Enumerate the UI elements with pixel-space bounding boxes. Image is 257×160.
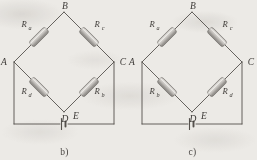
resistor-label-c-lower-right: R d — [221, 86, 233, 98]
node-label-a-c: A — [128, 57, 135, 67]
svg-text:c: c — [102, 24, 105, 31]
resistor-label-c-lower-left: R b — [148, 86, 159, 98]
svg-text:R: R — [20, 19, 27, 29]
resistor-c-lower-left — [150, 70, 183, 103]
svg-text:d: d — [28, 91, 32, 98]
node-label-d-b: D — [61, 114, 69, 124]
svg-text:b: b — [156, 91, 159, 98]
svg-text:R: R — [20, 86, 27, 96]
node-label-c-c: C — [248, 57, 255, 67]
svg-text:a: a — [156, 24, 159, 31]
svg-text:b: b — [101, 91, 104, 98]
circuit-panel-b: A B C D R a R c R d R b E b) — [0, 0, 129, 160]
svg-text:R: R — [221, 19, 228, 29]
svg-text:R: R — [221, 86, 228, 96]
resistor-b-lower-right — [72, 70, 105, 103]
panel-caption-b: b) — [0, 147, 129, 157]
emf-label-c: E — [200, 111, 207, 121]
resistor-label-c-upper-left: R a — [148, 19, 159, 31]
svg-text:d: d — [229, 91, 233, 98]
svg-text:R: R — [93, 19, 100, 29]
resistor-label-b-lower-right: R b — [93, 86, 104, 98]
panel-caption-c: c) — [128, 147, 257, 157]
resistor-b-upper-left — [22, 20, 55, 53]
node-label-b-b: B — [62, 1, 68, 11]
node-label-d-c: D — [189, 114, 197, 124]
svg-text:R: R — [148, 19, 155, 29]
svg-text:R: R — [93, 86, 100, 96]
circuit-panel-c: A B C D R a R c R b R d E c) — [128, 0, 257, 160]
node-label-c-b: C — [120, 57, 127, 67]
resistor-c-upper-left — [150, 20, 183, 53]
circuit-diagram-b: A B C D R a R c R d R b E — [0, 0, 129, 160]
emf-label-b: E — [72, 111, 79, 121]
svg-text:c: c — [230, 24, 233, 31]
svg-text:R: R — [148, 86, 155, 96]
circuit-diagram-c: A B C D R a R c R b R d E — [128, 0, 257, 160]
resistor-label-b-upper-right: R c — [93, 19, 104, 31]
node-label-a-b: A — [0, 57, 7, 67]
resistor-label-c-upper-right: R c — [221, 19, 232, 31]
resistor-label-b-upper-left: R a — [20, 19, 31, 31]
resistor-c-lower-right — [200, 70, 233, 103]
figure-page: A B C D R a R c R d R b E b) — [0, 0, 257, 160]
resistor-label-b-lower-left: R d — [20, 86, 32, 98]
node-label-b-c: B — [190, 1, 196, 11]
resistor-b-lower-left — [22, 70, 55, 103]
svg-text:a: a — [28, 24, 31, 31]
